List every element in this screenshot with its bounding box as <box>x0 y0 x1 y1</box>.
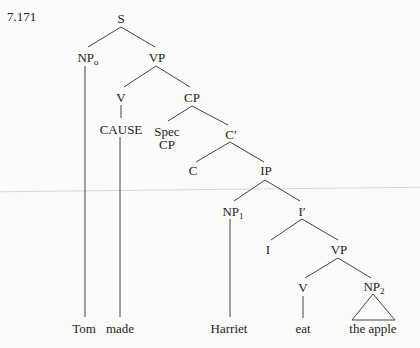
node-vp-lower: VP <box>331 243 348 256</box>
terminal-eat: eat <box>295 322 310 335</box>
node-np2: NP2 <box>363 280 384 293</box>
node-np0: NPo <box>77 51 98 64</box>
node-i: I <box>266 243 270 256</box>
terminal-harriet: Harriet <box>211 322 248 335</box>
node-c: C <box>189 164 198 177</box>
tree-branches <box>0 0 420 348</box>
terminal-the-apple: the apple <box>349 322 396 335</box>
terminal-made: made <box>106 322 134 335</box>
node-spec-cp: SpecCP <box>154 125 179 151</box>
node-v: V <box>116 91 125 104</box>
node-s: S <box>117 12 124 25</box>
node-c-bar: C′ <box>225 128 237 141</box>
node-vp: VP <box>149 51 166 64</box>
node-i-bar: I′ <box>298 205 305 218</box>
node-cause: CAUSE <box>100 123 143 136</box>
node-ip: IP <box>260 164 272 177</box>
node-cp: CP <box>184 91 200 104</box>
node-v-lower: V <box>298 281 307 294</box>
example-number: 7.171 <box>7 9 36 25</box>
node-np1: NP1 <box>222 205 243 218</box>
terminal-tom: Tom <box>72 322 96 335</box>
